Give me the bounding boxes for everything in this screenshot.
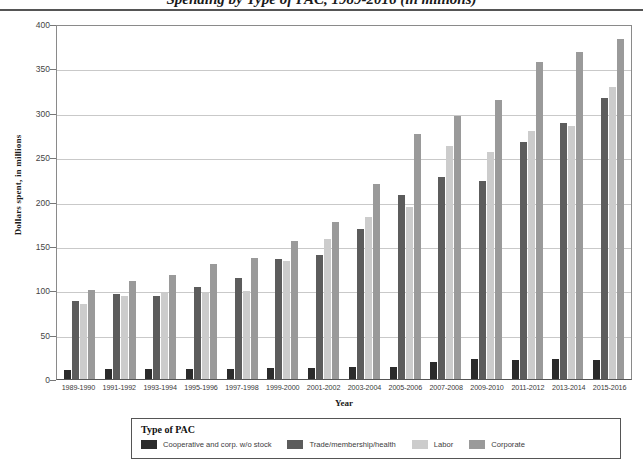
bar-group xyxy=(100,26,141,379)
x-axis-tick-label: 2003-2004 xyxy=(344,382,385,396)
x-axis-tick-label: 1995-1996 xyxy=(181,382,222,396)
bar xyxy=(568,126,575,379)
legend-swatch-icon xyxy=(141,440,157,449)
bar xyxy=(609,87,616,379)
bar-group xyxy=(588,26,629,379)
x-axis-tick-label: 2007-2008 xyxy=(426,382,467,396)
bar xyxy=(576,52,583,379)
x-axis-tick-label: 2009-2010 xyxy=(467,382,508,396)
x-axis-tick-label: 2015-2016 xyxy=(589,382,630,396)
title-divider xyxy=(0,9,643,11)
bar xyxy=(414,134,421,379)
bar xyxy=(593,360,600,379)
bar-group xyxy=(303,26,344,379)
bar xyxy=(528,131,535,379)
bar-group xyxy=(344,26,385,379)
bar xyxy=(398,195,405,379)
bar xyxy=(536,62,543,379)
bar-group xyxy=(466,26,507,379)
bar xyxy=(227,369,234,379)
bar-group xyxy=(385,26,426,379)
bar xyxy=(471,359,478,379)
bar xyxy=(113,294,120,379)
y-axis-tick-label: 0 xyxy=(10,375,50,385)
y-axis-tick-label: 250 xyxy=(10,153,50,163)
bar xyxy=(243,291,250,379)
bar-groups xyxy=(57,26,631,379)
bar xyxy=(80,304,87,379)
bar-group xyxy=(263,26,304,379)
bar xyxy=(446,146,453,379)
bar xyxy=(251,258,258,379)
bar xyxy=(495,100,502,379)
x-axis-tick-label: 1999-2000 xyxy=(262,382,303,396)
bar xyxy=(324,239,331,379)
bar xyxy=(617,39,624,379)
legend-swatch-icon xyxy=(412,440,428,449)
x-axis-tick-label: 1991-1992 xyxy=(99,382,140,396)
bar-group xyxy=(548,26,589,379)
bar xyxy=(235,278,242,379)
bar xyxy=(145,369,152,379)
y-axis-tick-label: 100 xyxy=(10,286,50,296)
bar xyxy=(267,368,274,379)
bar-group xyxy=(59,26,100,379)
legend-item[interactable]: Trade/membership/health xyxy=(287,440,395,449)
bar xyxy=(129,281,136,380)
legend-item-label: Trade/membership/health xyxy=(309,440,395,449)
bar xyxy=(454,116,461,379)
legend-items: Cooperative and corp. w/o stockTrade/mem… xyxy=(141,440,611,449)
legend-title: Type of PAC xyxy=(141,424,611,435)
legend-item[interactable]: Cooperative and corp. w/o stock xyxy=(141,440,271,449)
legend-item-label: Labor xyxy=(434,440,453,449)
bar xyxy=(390,367,397,379)
x-axis-tick-label: 1989-1990 xyxy=(58,382,99,396)
bar xyxy=(373,184,380,379)
bar xyxy=(406,207,413,379)
bar xyxy=(161,293,168,379)
chart-title: Spending by Type of PAC, 1989-2016 (in m… xyxy=(0,0,643,9)
y-axis-tick-label: 300 xyxy=(10,109,50,119)
x-axis-tick-labels: 1989-19901991-19921993-19941995-19961997… xyxy=(56,382,632,396)
bar xyxy=(72,301,79,379)
bar xyxy=(316,255,323,379)
bar xyxy=(291,241,298,379)
bar xyxy=(64,370,71,379)
bar xyxy=(202,293,209,379)
y-axis-tick-mark xyxy=(50,380,56,381)
x-axis-tick-label: 2011-2012 xyxy=(507,382,548,396)
plot-area xyxy=(56,25,632,380)
legend-item-label: Cooperative and corp. w/o stock xyxy=(163,440,271,449)
y-axis-tick-label: 50 xyxy=(10,331,50,341)
legend-swatch-icon xyxy=(287,440,303,449)
bar xyxy=(552,359,559,379)
bar xyxy=(121,296,128,379)
bar xyxy=(357,229,364,379)
legend-item[interactable]: Corporate xyxy=(469,440,525,449)
legend-swatch-icon xyxy=(469,440,485,449)
bar-group xyxy=(181,26,222,379)
bar xyxy=(487,152,494,379)
bar xyxy=(275,259,282,379)
x-axis-tick-label: 2001-2002 xyxy=(303,382,344,396)
legend-item-label: Corporate xyxy=(491,440,525,449)
bar-group xyxy=(425,26,466,379)
bar xyxy=(105,369,112,379)
bar xyxy=(365,217,372,379)
y-axis-tick-label: 200 xyxy=(10,198,50,208)
bar xyxy=(332,222,339,379)
bar xyxy=(349,367,356,379)
bar xyxy=(194,287,201,379)
bar xyxy=(186,369,193,379)
bar xyxy=(88,290,95,379)
bar xyxy=(210,264,217,379)
y-axis-tick-label: 400 xyxy=(10,20,50,30)
legend-item[interactable]: Labor xyxy=(412,440,453,449)
bar-group xyxy=(140,26,181,379)
x-axis-tick-label: 2005-2006 xyxy=(385,382,426,396)
bar xyxy=(308,368,315,379)
bar xyxy=(601,98,608,379)
y-axis-tick-label: 350 xyxy=(10,64,50,74)
bar xyxy=(520,142,527,379)
bar xyxy=(283,261,290,379)
